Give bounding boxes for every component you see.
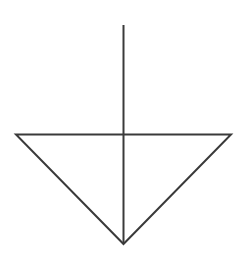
ground-symbol-diagram: [0, 0, 243, 265]
